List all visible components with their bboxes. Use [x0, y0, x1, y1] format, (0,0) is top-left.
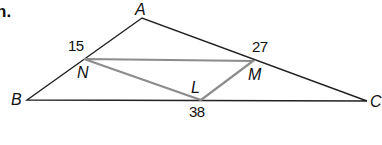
vertex-label-a: A: [135, 2, 146, 18]
vertex-label-l: L: [191, 80, 200, 96]
vertex-label-b: B: [11, 92, 22, 108]
value-label-38: 38: [189, 104, 205, 119]
value-label-15: 15: [68, 38, 84, 53]
vertex-label-n: N: [77, 65, 89, 81]
vertex-label-m: M: [248, 67, 261, 83]
inner-triangle-nlm: [84, 59, 253, 100]
value-label-27: 27: [252, 39, 268, 54]
vertex-label-c: C: [370, 94, 382, 110]
